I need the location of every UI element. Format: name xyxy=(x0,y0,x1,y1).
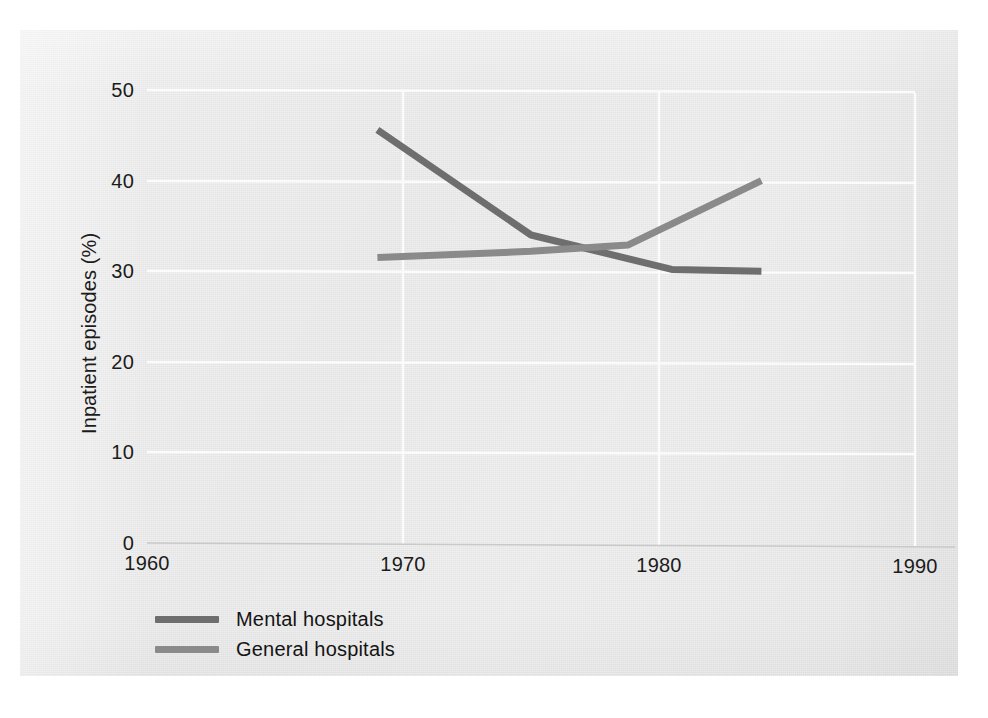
y-axis-title: Inpatient episodes (%) xyxy=(78,233,101,434)
x-tick-label-1990: 1990 xyxy=(865,555,965,578)
legend-label-mental-hospitals: Mental hospitals xyxy=(236,608,384,631)
vertical-gridlines xyxy=(403,90,915,547)
y-tick-label-50: 50 xyxy=(86,79,134,102)
line-chart-figure: 50 40 30 20 10 0 1960 1970 1980 1990 Inp… xyxy=(0,0,988,718)
horizontal-gridlines xyxy=(147,90,915,454)
x-tick-label-1970: 1970 xyxy=(353,553,453,576)
legend-swatch-icon-mental-hospitals xyxy=(155,616,219,623)
y-tick-label-10: 10 xyxy=(86,441,134,464)
x-tick-label-1960: 1960 xyxy=(97,552,197,575)
legend-item-general-hospitals[interactable]: General hospitals xyxy=(155,634,395,664)
legend-item-mental-hospitals[interactable]: Mental hospitals xyxy=(155,604,395,634)
chart-legend: Mental hospitals General hospitals xyxy=(155,604,395,664)
x-axis-line xyxy=(147,543,955,547)
legend-swatch-icon-general-hospitals xyxy=(155,646,219,653)
x-tick-label-1980: 1980 xyxy=(609,554,709,577)
plot-canvas xyxy=(0,0,988,718)
y-tick-label-40: 40 xyxy=(86,170,134,193)
legend-label-general-hospitals: General hospitals xyxy=(236,638,395,661)
series-line-general-hospitals xyxy=(377,181,761,258)
